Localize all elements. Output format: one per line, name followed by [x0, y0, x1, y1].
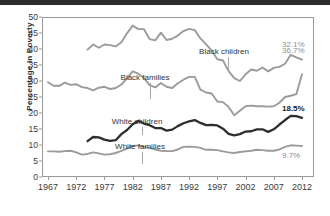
series-annotation-label: Black children	[199, 47, 249, 56]
x-tick-mark	[133, 177, 134, 180]
poverty-line-chart: Percentage in Poverty 051015202530354045…	[0, 5, 330, 216]
x-tick-mark	[302, 177, 303, 180]
y-tick-label: 40	[29, 44, 38, 54]
x-tick-mark	[274, 177, 275, 180]
series-end-label: 32.1%	[282, 40, 305, 49]
y-tick-label: 30	[29, 76, 38, 86]
y-tick-label: 20	[29, 108, 38, 118]
x-tick-label: 2012	[292, 182, 312, 192]
series-annotation-label: White children	[112, 117, 163, 126]
annotation-leader-line	[142, 127, 143, 135]
y-tick-label: 35	[29, 60, 38, 70]
y-tick-label: 25	[29, 92, 38, 102]
annotation-leader-line	[150, 83, 151, 99]
series-lines	[42, 17, 314, 177]
y-tick-label: 0	[33, 172, 38, 182]
x-tick-mark	[76, 177, 77, 180]
x-tick-mark	[217, 177, 218, 180]
x-tick-label: 1972	[66, 182, 86, 192]
series-end-label: 9.7%	[282, 150, 300, 159]
x-tick-mark	[48, 177, 49, 180]
series-end-label: 18.5%	[282, 103, 305, 112]
y-tick-label: 50	[29, 12, 38, 22]
x-tick-mark	[189, 177, 190, 180]
x-tick-label: 1992	[179, 182, 199, 192]
x-tick-mark	[161, 177, 162, 180]
y-tick-label: 5	[33, 156, 38, 166]
y-tick-label: 45	[29, 28, 38, 38]
x-tick-mark	[246, 177, 247, 180]
plot-area: 05101520253035404550 1967197219771982198…	[42, 17, 314, 177]
y-tick-label: 10	[29, 140, 38, 150]
y-tick-label: 15	[29, 124, 38, 134]
series-annotation-label: White families	[115, 142, 165, 151]
series-annotation-label: Black families	[121, 73, 170, 82]
x-tick-label: 2007	[264, 182, 284, 192]
series-line	[48, 145, 302, 154]
annotation-leader-line	[228, 57, 229, 72]
x-tick-label: 1987	[151, 182, 171, 192]
x-tick-label: 1997	[207, 182, 227, 192]
series-line	[48, 71, 302, 115]
x-tick-label: 1982	[123, 182, 143, 192]
x-tick-label: 1967	[38, 182, 58, 192]
x-tick-label: 1977	[94, 182, 114, 192]
x-tick-mark	[104, 177, 105, 180]
annotation-leader-line	[142, 152, 143, 164]
x-tick-label: 2002	[236, 182, 256, 192]
